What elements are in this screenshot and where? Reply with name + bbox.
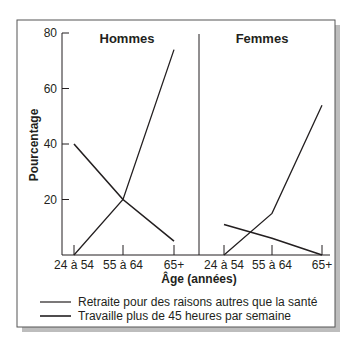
y-tick-label: 20 [44, 193, 58, 207]
panel-title-femmes: Femmes [236, 31, 289, 46]
x-tick-label: 65+ [164, 258, 184, 272]
x-tick-label: 24 à 54 [54, 258, 94, 272]
legend-label-retraite: Retraite pour des raisons autres que la … [78, 295, 318, 309]
legend: Retraite pour des raisons autres que la … [40, 295, 318, 323]
x-tick-label: 55 à 64 [252, 258, 292, 272]
y-tick-label: 60 [44, 82, 58, 96]
x-tick-label: 24 à 54 [204, 258, 244, 272]
x-tick-label: 65+ [312, 258, 332, 272]
x-axis-label: Âge (années) [161, 271, 236, 286]
legend-label-travaille: Travaille plus de 45 heures par semaine [78, 309, 291, 323]
panel-title-hommes: Hommes [100, 31, 155, 46]
x-tick-label: 55 à 64 [103, 258, 143, 272]
y-axis-label: Pourcentage [27, 108, 41, 181]
y-tick-label: 80 [44, 26, 58, 40]
chart: 2040608024 à 5455 à 6465+24 à 5455 à 646… [0, 0, 353, 345]
y-tick-label: 40 [44, 137, 58, 151]
